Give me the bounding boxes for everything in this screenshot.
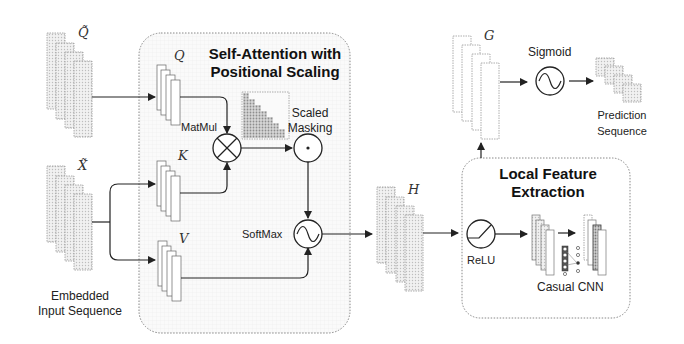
- prediction-sequence-caption: Prediction Sequence: [587, 107, 657, 139]
- q-tilde-label: Q̃: [78, 25, 89, 40]
- g-stack: [453, 36, 499, 139]
- x-tilde-stack: [47, 166, 92, 270]
- q-tilde-stack: [47, 33, 92, 137]
- label-line: Scaled: [285, 106, 335, 121]
- softmax-icon: [294, 220, 322, 248]
- scaled-masking-label: Scaled Masking: [285, 106, 335, 136]
- embedded-input-caption: Embedded Input Sequence: [30, 289, 130, 319]
- k-label: K: [178, 148, 188, 163]
- causal-cnn-label: Casual CNN: [537, 280, 604, 294]
- masking-matrix-icon: [242, 92, 289, 139]
- sigmoid-icon: [536, 67, 564, 95]
- caption-line: Sequence: [587, 123, 657, 139]
- title-line: Positional Scaling: [195, 63, 355, 81]
- label-line: Masking: [285, 121, 335, 136]
- h-stack: [377, 187, 423, 291]
- h-label: H: [408, 182, 419, 197]
- matmul-label: MatMul: [181, 121, 217, 133]
- v-label: V: [179, 231, 188, 246]
- prediction-sequence-stack: [596, 58, 641, 102]
- softmax-label: SoftMax: [242, 228, 282, 240]
- title-line: Local Feature: [478, 165, 618, 183]
- caption-line: Embedded: [30, 289, 130, 304]
- matmul-icon: [213, 134, 241, 162]
- caption-line: Input Sequence: [30, 304, 130, 319]
- title-line: Extraction: [478, 183, 618, 201]
- title-line: Self-Attention with: [195, 45, 355, 63]
- scaled-masking-icon: [294, 134, 322, 162]
- relu-icon: [467, 220, 495, 248]
- local-feature-title: Local Feature Extraction: [478, 165, 618, 201]
- relu-label: ReLU: [467, 254, 495, 266]
- caption-line: Prediction: [587, 107, 657, 123]
- self-attention-title: Self-Attention with Positional Scaling: [195, 45, 355, 81]
- q-label: Q: [174, 48, 185, 63]
- g-label: G: [484, 28, 494, 43]
- x-tilde-label: X̃: [78, 158, 87, 173]
- sigmoid-label: Sigmoid: [528, 45, 571, 59]
